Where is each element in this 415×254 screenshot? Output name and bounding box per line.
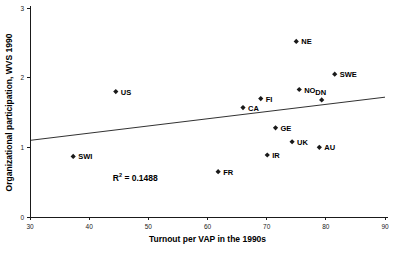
diamond-marker	[294, 39, 299, 44]
x-tick-label: 90	[381, 223, 389, 230]
data-point: GE	[273, 124, 291, 133]
data-point: DN	[315, 88, 326, 103]
data-point: FR	[216, 168, 234, 177]
x-tick-label: 30	[26, 223, 34, 230]
diamond-marker	[290, 139, 295, 144]
y-tick-label: 2	[20, 74, 24, 81]
data-point-label: DN	[315, 88, 326, 97]
y-tick-label: 0	[20, 214, 24, 221]
data-point-label: NE	[301, 37, 311, 46]
y-tick-label: 1	[20, 144, 24, 151]
diamond-marker	[113, 89, 118, 94]
diamond-marker	[332, 72, 337, 77]
data-point: NE	[294, 37, 312, 46]
data-point-label: AU	[324, 143, 335, 152]
diamond-marker	[71, 154, 76, 159]
data-point-label: FR	[223, 168, 234, 177]
diamond-marker	[265, 152, 270, 157]
diamond-marker	[258, 96, 263, 101]
x-tick-label: 50	[145, 223, 153, 230]
data-point-label: UK	[297, 138, 308, 147]
data-point: FI	[258, 95, 272, 104]
diamond-marker	[317, 145, 322, 150]
diamond-marker	[297, 87, 302, 92]
data-point-label: FI	[266, 95, 273, 104]
trendline	[30, 97, 385, 140]
diamond-marker	[273, 125, 278, 130]
data-point: UK	[290, 138, 309, 147]
diamond-marker	[216, 169, 221, 174]
data-point-label: SWE	[340, 70, 357, 79]
data-point-label: US	[121, 88, 131, 97]
y-axis-title: Organizational participation, WVS 1990	[4, 33, 14, 191]
data-point: AU	[317, 143, 335, 152]
x-tick-label: 80	[322, 223, 330, 230]
x-tick-label: 40	[86, 223, 94, 230]
x-axis-title: Turnout per VAP in the 1990s	[149, 234, 266, 244]
data-point-label: IR	[272, 151, 280, 160]
diamond-marker	[319, 97, 324, 102]
diamond-marker	[240, 105, 245, 110]
data-point-label: CA	[248, 104, 259, 113]
x-tick-label: 70	[263, 223, 271, 230]
r-squared-annotation: R2 = 0.1488	[113, 172, 158, 183]
data-point: IR	[265, 151, 281, 160]
data-point: CA	[240, 104, 259, 113]
data-point-label: GE	[281, 124, 292, 133]
data-point: SWE	[332, 70, 357, 79]
y-tick-label: 3	[20, 5, 24, 12]
chart-canvas: 012330405060708090Turnout per VAP in the…	[0, 0, 415, 254]
data-point: US	[113, 88, 131, 97]
x-tick-label: 60	[204, 223, 212, 230]
data-point-label: SWI	[78, 152, 92, 161]
data-point-label: NO	[304, 86, 315, 95]
data-point: SWI	[71, 152, 93, 161]
data-point: NO	[297, 86, 316, 95]
scatter-chart: 012330405060708090Turnout per VAP in the…	[0, 0, 415, 254]
